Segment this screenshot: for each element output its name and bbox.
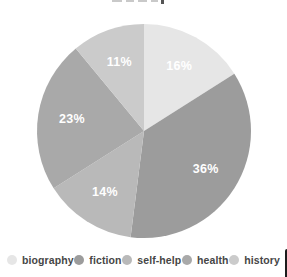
legend-item-fiction: fiction bbox=[74, 254, 121, 266]
legend-label-biography: biography bbox=[22, 254, 74, 266]
legend-item-health: health bbox=[182, 254, 229, 266]
slice-value-label-health: 23% bbox=[59, 112, 85, 126]
legend-swatch-fiction bbox=[74, 255, 84, 265]
legend-swatch-health bbox=[182, 255, 192, 265]
legend-swatch-self-help bbox=[122, 255, 132, 265]
legend-swatch-history bbox=[229, 255, 239, 265]
cropped-edge-artifact bbox=[285, 249, 287, 277]
slice-value-label-biography: 16% bbox=[166, 59, 192, 73]
legend-item-biography: biography bbox=[7, 254, 74, 266]
slice-value-label-self-help: 14% bbox=[92, 185, 118, 199]
chart-legend: biography fiction self-help health histo… bbox=[0, 249, 287, 271]
legend-label-self-help: self-help bbox=[137, 254, 181, 266]
legend-item-self-help: self-help bbox=[122, 254, 181, 266]
pie-chart: 16%36%14%23%11% bbox=[0, 0, 287, 250]
legend-item-history: history bbox=[229, 254, 280, 266]
slice-value-label-history: 11% bbox=[107, 55, 132, 69]
pie-svg: 16%36%14%23%11% bbox=[0, 0, 287, 250]
legend-swatch-biography bbox=[7, 255, 17, 265]
legend-label-fiction: fiction bbox=[89, 254, 121, 266]
pie-chart-panel: 16%36%14%23%11% biography fiction self-h… bbox=[0, 0, 287, 277]
legend-label-history: history bbox=[244, 254, 280, 266]
legend-label-health: health bbox=[197, 254, 229, 266]
slice-value-label-fiction: 36% bbox=[193, 162, 219, 176]
